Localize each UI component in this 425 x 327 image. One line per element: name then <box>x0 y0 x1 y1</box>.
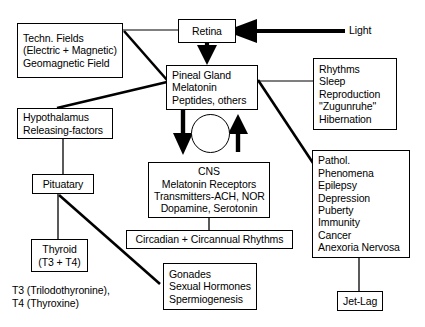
pineal-gland-box[interactable]: Pineal Gland Melatonin Peptides, others <box>166 65 258 110</box>
techn-fields-line-2: (Electric + Magnetic) <box>23 44 117 56</box>
thyroid-line-2: (T3 + T4) <box>37 256 82 268</box>
rhythms-line-2: Sleep <box>319 75 391 87</box>
pituitary-box[interactable]: Pituatary <box>32 174 94 194</box>
connector-techfields-pineal <box>124 31 167 80</box>
pituitary-label: Pituatary <box>38 178 88 190</box>
rhythms-line-1: Rhythms <box>319 63 391 75</box>
diagram-canvas: Techn. Fields (Electric + Magnetic) Geom… <box>0 0 425 327</box>
connector-pineal-hypothalamus <box>57 82 167 108</box>
techn-fields-line-1: Techn. Fields <box>23 32 117 44</box>
light-label: Light <box>349 24 371 37</box>
cns-box[interactable]: CNS Melatonin Receptors Transmitters-ACH… <box>148 162 270 218</box>
pathology-line-7: Cancer <box>318 229 404 241</box>
pathology-line-2: Phenomena <box>318 167 404 179</box>
hypothalamus-line-2: Releasing-factors <box>23 124 107 136</box>
circadian-label: Circadian + Circannual Rhythms <box>132 233 287 245</box>
techn-fields-box[interactable]: Techn. Fields (Electric + Magnetic) Geom… <box>17 23 123 78</box>
pathology-line-5: Puberty <box>318 204 404 216</box>
pineal-line-1: Pineal Gland <box>172 69 252 81</box>
connector-pineal-pathology <box>258 80 313 163</box>
cns-line-4: Dopamine, Serotonin <box>154 202 264 214</box>
rhythms-box[interactable]: Rhythms Sleep Reproduction "Zugunruhe" H… <box>313 58 397 130</box>
abbreviation-footnote: T3 (Trilodothyronine), T4 (Thyroxine) <box>12 284 110 310</box>
pineal-line-2: Melatonin <box>172 81 252 93</box>
jet-lag-box[interactable]: Jet-Lag <box>337 291 383 311</box>
gonades-line-2: Sexual Hormones <box>169 280 251 292</box>
circadian-box[interactable]: Circadian + Circannual Rhythms <box>126 230 293 249</box>
rhythms-line-5: Hibernation <box>319 113 391 125</box>
gonades-line-3: Spermiogenesis <box>169 293 251 305</box>
gonades-box[interactable]: Gonades Sexual Hormones Spermiogenesis <box>163 263 257 310</box>
thyroid-line-1: Thyroid <box>37 243 82 255</box>
hypothalamus-box[interactable]: Hypothalamus Releasing-factors <box>17 108 113 139</box>
footnote-line-1: T3 (Trilodothyronine), <box>12 284 110 297</box>
rhythms-line-3: Reproduction <box>319 88 391 100</box>
cns-line-2: Melatonin Receptors <box>154 178 264 190</box>
arrow-pineal-cns-head <box>173 133 193 155</box>
clock-icon <box>191 114 230 153</box>
hypothalamus-line-1: Hypothalamus <box>23 111 107 123</box>
cns-line-3: Transmitters-ACH, NOR <box>154 190 264 202</box>
rhythms-line-4: "Zugunruhe" <box>319 100 391 112</box>
gonades-line-1: Gonades <box>169 268 251 280</box>
pathology-line-3: Epilepsy <box>318 179 404 191</box>
cns-line-1: CNS <box>154 165 264 177</box>
techn-fields-line-3: Geomagnetic Field <box>23 57 117 69</box>
arrow-retina-pineal-head <box>197 45 217 65</box>
pathology-line-8: Anexoria Nervosa <box>318 241 404 253</box>
retina-box[interactable]: Retina <box>178 19 236 43</box>
thyroid-box[interactable]: Thyroid (T3 + T4) <box>31 239 88 272</box>
arrow-cns-pineal-head <box>228 114 248 134</box>
light-label-group: Light <box>349 24 371 37</box>
footnote-line-2: T4 (Thyroxine) <box>12 297 110 310</box>
pathology-line-4: Depression <box>318 192 404 204</box>
pathology-box[interactable]: Pathol. Phenomena Epilepsy Depression Pu… <box>312 150 410 258</box>
pathology-line-1: Pathol. <box>318 154 404 166</box>
retina-label: Retina <box>184 25 230 37</box>
jet-lag-label: Jet-Lag <box>343 295 377 307</box>
pathology-line-6: Immunity <box>318 216 404 228</box>
pineal-line-3: Peptides, others <box>172 94 252 106</box>
